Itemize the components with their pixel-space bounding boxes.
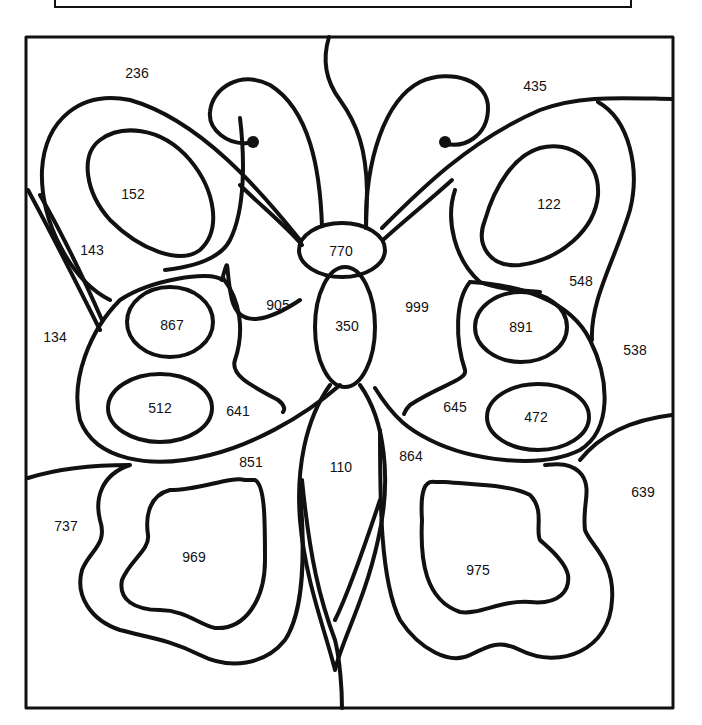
right-antenna-tip-icon: [439, 136, 451, 148]
right-tail-wing-outline: [380, 430, 612, 658]
region-label-236[interactable]: 236: [125, 65, 148, 81]
region-label-770[interactable]: 770: [329, 243, 352, 259]
region-label-969[interactable]: 969: [182, 549, 205, 565]
region-label-737[interactable]: 737: [54, 518, 77, 534]
region-label-975[interactable]: 975: [466, 562, 489, 578]
bottom-center-line-left: [302, 480, 342, 708]
left-edge-line: [28, 190, 100, 330]
right-upper-wing-band-inner: [451, 190, 540, 292]
left-antenna-tip-icon: [247, 136, 259, 148]
region-label-122[interactable]: 122: [537, 196, 560, 212]
region-label-134[interactable]: 134: [43, 329, 66, 345]
region-label-639[interactable]: 639: [631, 484, 654, 500]
region-label-548[interactable]: 548: [569, 273, 592, 289]
region-label-512[interactable]: 512: [148, 400, 171, 416]
region-label-538[interactable]: 538: [623, 342, 646, 358]
right-tail-wing-inner: [422, 482, 569, 613]
region-label-867[interactable]: 867: [160, 317, 183, 333]
left-lower-wing-outline: [77, 265, 340, 461]
region-label-851[interactable]: 851: [239, 454, 262, 470]
region-label-152[interactable]: 152: [121, 186, 144, 202]
region-label-645[interactable]: 645: [443, 399, 466, 415]
left-upper-oval: [88, 130, 214, 255]
region-label-905[interactable]: 905: [266, 297, 289, 313]
region-label-143[interactable]: 143: [80, 242, 103, 258]
region-label-641[interactable]: 641: [226, 403, 249, 419]
left-antenna: [210, 80, 322, 226]
region-label-864[interactable]: 864: [399, 448, 422, 464]
region-label-999[interactable]: 999: [405, 299, 428, 315]
region-label-472[interactable]: 472: [524, 409, 547, 425]
frame-border: [26, 37, 673, 708]
center-top-line: [325, 37, 367, 228]
region-label-350[interactable]: 350: [335, 318, 358, 334]
region-label-110[interactable]: 110: [330, 459, 352, 475]
right-upper-wing-band-outer: [592, 102, 634, 340]
left-wing-body-join: [240, 185, 302, 245]
right-wing-body-join: [383, 180, 452, 240]
region-label-435[interactable]: 435: [523, 78, 546, 94]
region-label-891[interactable]: 891: [509, 319, 532, 335]
butterfly-drawing: [0, 0, 702, 725]
